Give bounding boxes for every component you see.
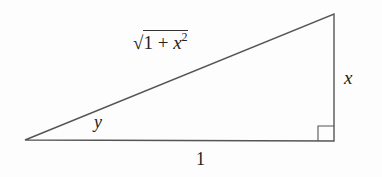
opposite-side-label: x: [344, 68, 352, 87]
radicand-base: 1 + x: [143, 32, 181, 53]
right-angle-marker: [318, 126, 334, 141]
radicand-exponent: 2: [182, 30, 188, 44]
triangle-diagram: √1 + x2 x y 1: [0, 0, 382, 177]
triangle-figure: [0, 0, 382, 177]
adjacent-side-label: 1: [196, 150, 205, 168]
angle-label: y: [94, 113, 102, 131]
radicand: 1 + x2: [143, 30, 187, 53]
hypotenuse-label: √1 + x2: [133, 31, 188, 52]
sqrt-symbol: √: [133, 32, 143, 53]
